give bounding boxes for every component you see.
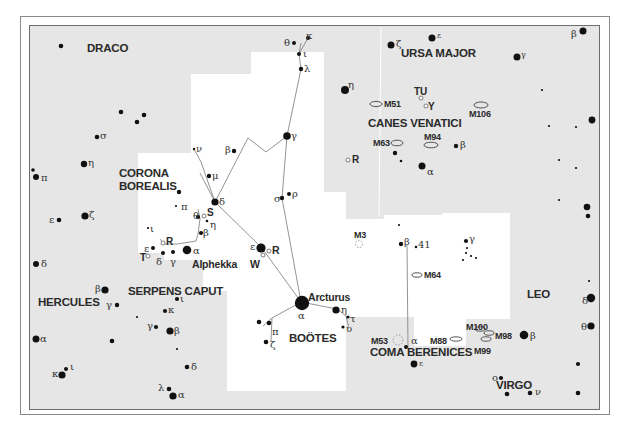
label-draco: DRACO bbox=[87, 42, 128, 54]
label-corona: CORONA bbox=[119, 167, 169, 179]
greek-cvn-alpha: α bbox=[427, 166, 434, 177]
label-arcturus: Arcturus bbox=[308, 291, 350, 303]
greek-crb-alpha: α bbox=[193, 245, 200, 256]
greek-ser-delta: δ bbox=[191, 361, 197, 372]
greek-vir-omicron: ο bbox=[492, 372, 498, 383]
greek-ser-gamma: γ bbox=[147, 320, 153, 331]
greek-crb-iota: ι bbox=[150, 223, 154, 234]
greek-boo-mu: μ bbox=[212, 170, 219, 181]
label-w-boo: W bbox=[250, 258, 260, 270]
label-leo: LEO bbox=[527, 288, 550, 300]
greek-ursa-eta: η bbox=[348, 79, 354, 90]
greek-ursa-epsilon: ε bbox=[437, 31, 441, 40]
star-chart-graphics bbox=[30, 26, 599, 409]
label-tu: TU bbox=[414, 86, 427, 97]
greek-crb-beta: β bbox=[203, 227, 209, 238]
greek-leo-beta: β bbox=[530, 330, 536, 341]
label-coma-berenices: COMA BERENICES bbox=[370, 346, 472, 358]
greek-ursa-beta: β bbox=[571, 28, 577, 39]
label-m98: M98 bbox=[495, 331, 512, 341]
greek-boo-beta: β bbox=[225, 144, 231, 155]
greek-boo-iota: ι bbox=[303, 48, 307, 59]
greek-crb-delta: δ bbox=[156, 256, 162, 267]
label-hercules: HERCULES bbox=[38, 296, 100, 308]
greek-her-gamma: γ bbox=[106, 299, 112, 310]
label-r-boo: R bbox=[272, 244, 279, 256]
star-chart: DRACO URSA MAJOR CANES VENATICI CORONA B… bbox=[29, 25, 600, 410]
greek-boo-kappa: κ bbox=[306, 30, 312, 41]
greek-boo-theta: θ bbox=[284, 37, 290, 48]
greek-ursa-gamma: γ bbox=[521, 50, 526, 59]
label-m88: M88 bbox=[430, 336, 447, 346]
greek-draco-delta: δ bbox=[41, 258, 47, 269]
greek-com-gamma: γ bbox=[469, 233, 475, 244]
label-m100: M100 bbox=[466, 322, 488, 332]
greek-boo-eta: η bbox=[341, 304, 347, 315]
label-s-crb: S bbox=[207, 207, 213, 218]
greek-leo-delta: δ bbox=[582, 295, 588, 306]
greek-ser-lambda: λ bbox=[158, 382, 164, 393]
label-borealis: BOREALIS bbox=[119, 180, 177, 192]
label-bootes: BOÖTES bbox=[289, 332, 336, 344]
label-y: Y bbox=[428, 101, 434, 112]
label-m94: M94 bbox=[424, 132, 441, 142]
greek-crb-epsilon: ε bbox=[144, 243, 149, 254]
label-virgo: VIRGO bbox=[496, 379, 532, 391]
greek-boo-alpha: α bbox=[298, 310, 305, 321]
greek-boo-upsilon: υ bbox=[346, 323, 352, 334]
greek-draco-eta: η bbox=[88, 157, 94, 168]
greek-crb-eta: η bbox=[210, 219, 216, 230]
greek-boo-sigma: σ bbox=[274, 193, 281, 204]
label-alphekka: Alphekka bbox=[192, 258, 237, 270]
label-m64: M64 bbox=[424, 270, 441, 280]
label-m51: M51 bbox=[384, 99, 401, 109]
greek-com-alpha: α bbox=[411, 335, 418, 346]
greek-boo-delta: δ bbox=[219, 196, 225, 207]
greek-ser-beta: β bbox=[174, 325, 180, 336]
greek-draco-sigma: σ bbox=[100, 130, 107, 141]
greek-boo-lambda: λ bbox=[304, 63, 310, 74]
greek-boo-rho: ρ bbox=[292, 188, 298, 199]
greek-crb-pi: π bbox=[181, 201, 188, 212]
label-ursa-major: URSA MAJOR bbox=[401, 47, 476, 59]
label-serpens-caput: SERPENS CAPUT bbox=[128, 285, 223, 297]
greek-ser-alpha: α bbox=[178, 389, 185, 400]
label-m106: M106 bbox=[469, 109, 491, 119]
greek-ser-iota: ι bbox=[180, 293, 184, 304]
label-m3: M3 bbox=[354, 230, 366, 240]
greek-boo-zeta: ζ bbox=[270, 339, 275, 350]
label-r-crb: R bbox=[166, 236, 173, 247]
greek-her-iota: ι bbox=[70, 361, 74, 372]
greek-draco-epsilon: ε bbox=[49, 214, 54, 225]
label-m63: M63 bbox=[373, 138, 390, 148]
greek-her-beta: β bbox=[95, 283, 101, 294]
greek-vir-nu: ν bbox=[535, 386, 541, 397]
greek-cvn-beta: β bbox=[460, 139, 466, 150]
greek-crb-gamma: γ bbox=[170, 256, 176, 267]
greek-com-beta: β bbox=[404, 236, 410, 247]
greek-her-kappa: κ bbox=[52, 368, 58, 379]
label-r-cvn: R bbox=[352, 154, 359, 165]
greek-boo-nu: ν bbox=[196, 143, 202, 154]
greek-vir-epsilon: ε bbox=[419, 359, 423, 368]
greek-boo-epsilon: ε bbox=[250, 241, 255, 252]
greek-ser-kappa: κ bbox=[168, 304, 174, 315]
greek-leo-theta: θ bbox=[581, 321, 587, 332]
greek-draco-pi: π bbox=[41, 172, 48, 183]
greek-boo-pi: π bbox=[272, 326, 279, 337]
greek-ursa-zeta: ζ bbox=[396, 38, 401, 49]
greek-crb-theta: θ bbox=[193, 210, 199, 221]
label-m53: M53 bbox=[371, 336, 388, 346]
label-canes-venatici: CANES VENATICI bbox=[368, 117, 461, 129]
greek-boo-gamma: γ bbox=[291, 130, 297, 141]
label-41-com: 41 bbox=[418, 239, 431, 250]
greek-her-alpha: α bbox=[40, 333, 47, 344]
greek-draco-zeta: ζ bbox=[89, 209, 94, 220]
label-m99: M99 bbox=[474, 346, 491, 356]
